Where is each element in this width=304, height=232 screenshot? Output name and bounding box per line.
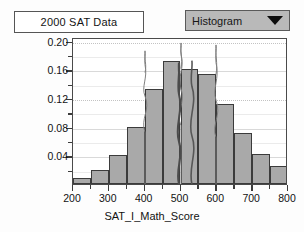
x-tick — [251, 185, 252, 191]
x-tick — [144, 185, 145, 191]
chevron-down-icon[interactable] — [267, 16, 283, 25]
plot-type-selected-label: Histogram — [192, 15, 263, 27]
plot-inner — [73, 39, 286, 184]
histogram-window: 2000 SAT Data Histogram Relative Frequen… — [0, 0, 304, 232]
x-tick-label: 600 — [207, 192, 225, 204]
histogram-bar — [91, 170, 109, 184]
dataset-title-label: 2000 SAT Data — [41, 16, 118, 28]
plot-area — [72, 38, 287, 185]
histogram-bar — [270, 166, 286, 184]
x-tick — [287, 185, 288, 191]
x-tick — [108, 185, 109, 191]
x-tick — [72, 185, 73, 191]
histogram-bar — [234, 133, 252, 184]
y-tick-label: 0.20 — [48, 36, 68, 48]
x-tick-label: 200 — [63, 192, 81, 204]
histogram-bar — [252, 154, 270, 184]
gridline — [73, 43, 286, 45]
x-axis-title: SAT_I_Math_Score — [0, 210, 304, 222]
x-tick-minor — [269, 185, 270, 189]
x-tick — [180, 185, 181, 191]
histogram-bar — [163, 61, 181, 184]
y-tick-label: 0.16 — [48, 64, 68, 76]
x-tick-label: 500 — [171, 192, 189, 204]
histogram-bar — [198, 74, 216, 184]
y-tick-label: 0.12 — [48, 93, 68, 105]
histogram-bar — [181, 69, 199, 184]
histogram-bar — [73, 178, 91, 185]
histogram-bar — [145, 89, 163, 184]
x-tick-minor — [126, 185, 127, 189]
y-tick-label: 0.04 — [48, 150, 68, 162]
x-tick-minor — [162, 185, 163, 189]
x-tick-minor — [90, 185, 91, 189]
x-tick-minor — [233, 185, 234, 189]
histogram-bar — [216, 104, 234, 184]
y-tick-label: 0.08 — [48, 122, 68, 134]
x-tick-label: 800 — [278, 192, 296, 204]
plot-type-dropdown[interactable]: Histogram — [185, 10, 290, 31]
x-tick-label: 300 — [99, 192, 117, 204]
histogram-bar — [109, 155, 127, 184]
gridline-minor — [73, 57, 286, 58]
histogram-bar — [127, 127, 145, 184]
dataset-title-box: 2000 SAT Data — [14, 11, 144, 33]
x-tick-label: 700 — [242, 192, 260, 204]
x-tick-label: 400 — [135, 192, 153, 204]
x-tick-minor — [197, 185, 198, 189]
x-tick — [215, 185, 216, 191]
